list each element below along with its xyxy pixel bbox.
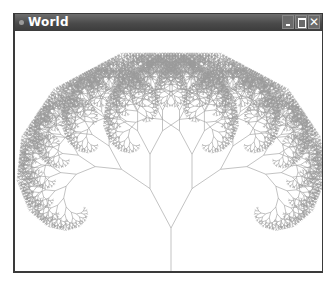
title-bar[interactable]: World ✕ <box>15 14 322 31</box>
window-controls: ✕ <box>282 15 320 29</box>
maximize-button[interactable] <box>295 15 307 29</box>
drawing-canvas <box>15 31 322 271</box>
fractal-tree-drawing <box>15 31 322 271</box>
world-window: World ✕ <box>13 13 323 273</box>
minimize-button[interactable] <box>282 15 294 29</box>
window-menu-icon[interactable] <box>19 20 24 25</box>
tree-branches <box>17 53 322 271</box>
window-title: World <box>28 14 69 31</box>
close-button[interactable]: ✕ <box>308 15 320 29</box>
